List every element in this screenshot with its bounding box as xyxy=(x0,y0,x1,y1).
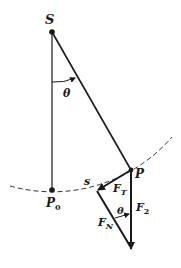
arc-path xyxy=(10,137,172,192)
label-equilibrium: P0 xyxy=(45,196,61,212)
label-pivot: S xyxy=(45,12,54,27)
label-normal: FN xyxy=(97,216,114,231)
label-angle-top: θ xyxy=(63,87,71,100)
label-angle-bottom: θ xyxy=(117,205,124,216)
pendulum-diagram: S θ P0 P s FT θ F2 FN xyxy=(0,0,181,268)
label-arc: s xyxy=(84,175,90,188)
pivot-point xyxy=(49,29,55,35)
equilibrium-point xyxy=(49,187,55,193)
label-tangential: FT xyxy=(112,182,128,197)
label-bob: P xyxy=(134,167,145,181)
pendulum-string xyxy=(52,32,131,170)
label-weight: F2 xyxy=(135,201,149,216)
angle-arc-top xyxy=(52,78,75,82)
